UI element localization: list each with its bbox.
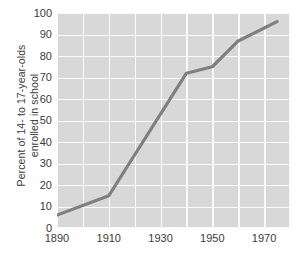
x-axis-tick-label: 1930 [136, 232, 186, 245]
y-axis-tick-label: 50 [26, 115, 52, 126]
line-chart: Percent of 14- to 17-year-olds enrolled … [0, 0, 305, 255]
plot-area [57, 13, 290, 228]
x-axis-tick-label: 1890 [32, 232, 82, 245]
y-axis-tick-label: 20 [26, 180, 52, 191]
y-axis-tick-label: 70 [26, 72, 52, 83]
series-line-enrollment [57, 13, 290, 228]
y-axis-tick-label: 40 [26, 137, 52, 148]
y-axis-tick-label: 60 [26, 94, 52, 105]
y-axis-tick-label: 10 [26, 201, 52, 212]
x-axis-tick-label: 1950 [187, 232, 237, 245]
x-axis-tick-label: 1910 [84, 232, 134, 245]
x-axis-tick-label: 1970 [239, 232, 289, 245]
y-axis-tick-label: 80 [26, 51, 52, 62]
y-axis-tick-label: 30 [26, 158, 52, 169]
y-axis-tick-labels: 1009080706050403020100 [26, 13, 52, 228]
y-axis-tick-label: 90 [26, 29, 52, 40]
y-axis-tick-label: 100 [26, 8, 52, 19]
x-axis-tick-labels: 18901910193019501970 [57, 232, 290, 248]
